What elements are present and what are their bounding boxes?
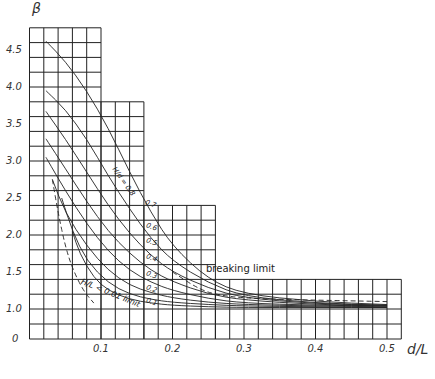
y-tick-label: 4.5	[6, 45, 22, 55]
y-tick-label: 3.5	[6, 119, 22, 129]
y-tick-label: 0	[12, 334, 18, 344]
x-tick-label: 0.1	[93, 344, 109, 354]
y-tick-label: 1.5	[6, 267, 22, 277]
chart-canvas	[0, 0, 435, 379]
y-tick-label: 2.0	[6, 230, 22, 240]
x-tick-label: 0.4	[308, 344, 324, 354]
x-tick-label: 0.3	[236, 344, 252, 354]
y-tick-label: 1.0	[6, 304, 22, 314]
y-tick-label: 4.0	[6, 82, 22, 92]
y-tick-label: 2.5	[6, 193, 22, 203]
y-axis-label: β	[32, 3, 41, 13]
breaking-limit-label: breaking limit	[206, 264, 275, 274]
x-tick-label: 0.5	[379, 344, 395, 354]
x-tick-label: 0.2	[165, 344, 181, 354]
stepped-grid	[30, 28, 402, 339]
y-tick-label: 3.0	[6, 156, 22, 166]
x-axis-label: d/L	[407, 344, 428, 354]
